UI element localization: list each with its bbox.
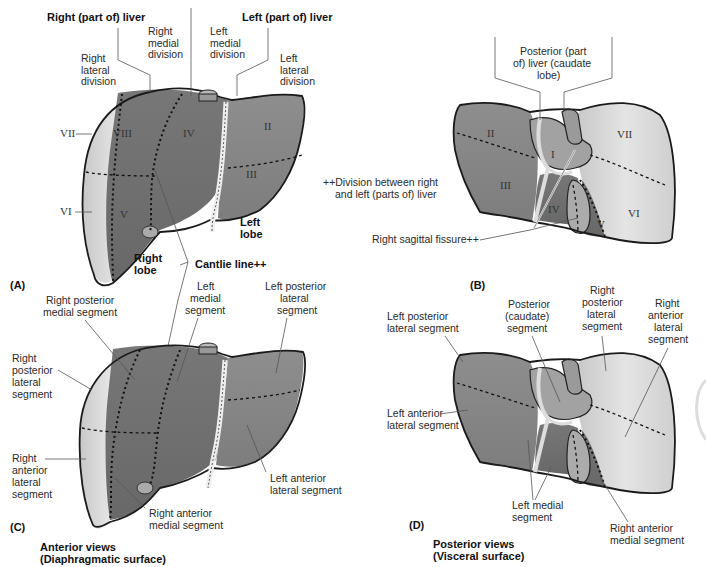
right-lobe-label: Right lobe [134, 252, 162, 276]
svg-text:(Diaphragmatic surface): (Diaphragmatic surface) [40, 553, 166, 565]
svg-text:Left posterior: Left posterior [387, 310, 449, 322]
segment-VIII-a: VIII [113, 127, 132, 139]
svg-text:Right anterior: Right anterior [149, 507, 213, 519]
svg-text:lateral: lateral [587, 308, 616, 320]
svg-text:posterior: posterior [582, 296, 623, 308]
left-posterior-lateral-d-label: Left posterior lateral segment [387, 310, 459, 334]
segment-VI-b: VI [628, 207, 640, 219]
svg-text:Left posterior: Left posterior [265, 280, 327, 292]
svg-text:segment: segment [512, 511, 552, 523]
anterior-views-caption: Anterior views (Diaphragmatic surface) [40, 541, 166, 565]
svg-text:division: division [148, 48, 183, 60]
left-part-liver-title: Left (part of) liver [242, 11, 333, 23]
right-medial-division-label: Right medial division [148, 25, 183, 60]
svg-text:and left (parts of) liver: and left (parts of) liver [335, 188, 437, 200]
svg-text:division: division [210, 48, 245, 60]
svg-text:segment: segment [185, 304, 225, 316]
segment-III-a: III [246, 168, 257, 180]
svg-text:medial segment: medial segment [43, 306, 117, 318]
svg-text:lateral: lateral [654, 321, 683, 333]
panel-d-id: (D) [409, 519, 425, 531]
right-posterior-lateral-d-label: Right posterior lateral segment [582, 284, 623, 332]
svg-text:Left: Left [210, 25, 228, 37]
segment-II-b: II [487, 127, 495, 139]
segment-V-b: V [597, 218, 605, 230]
posterior-views-caption: Posterior views (Visceral surface) [433, 538, 525, 562]
svg-text:lobe): lobe) [537, 69, 560, 81]
division-footnote: ++Division between right and left (parts… [323, 176, 438, 200]
left-anterior-lateral-c-label: Left anterior lateral segment [270, 472, 342, 496]
svg-text:medial: medial [190, 292, 221, 304]
panel-d: Left posterior lateral segment Posterior… [387, 284, 688, 562]
svg-text:lateral: lateral [12, 476, 41, 488]
svg-text:Left anterior: Left anterior [270, 472, 327, 484]
left-posterior-lateral-c-label: Left posterior lateral segment [265, 280, 327, 316]
panel-c: Right posterior medial segment Left medi… [10, 280, 342, 565]
left-medial-segment-c-label: Left medial segment [185, 280, 225, 316]
svg-text:division: division [81, 75, 116, 87]
svg-text:Posterior (part: Posterior (part [520, 45, 587, 57]
segment-V-a: V [120, 208, 128, 220]
segment-VI-a: VI [60, 205, 72, 217]
svg-text:++Division between right: ++Division between right [323, 176, 438, 188]
svg-text:Right anterior: Right anterior [610, 522, 674, 534]
svg-text:lobe: lobe [134, 264, 157, 276]
svg-text:Right: Right [590, 284, 615, 296]
svg-text:lateral: lateral [12, 376, 41, 388]
svg-text:segment: segment [12, 488, 52, 500]
svg-text:segment: segment [507, 322, 547, 334]
svg-text:Left: Left [280, 52, 298, 64]
right-anterior-medial-c-label: Right anterior medial segment [149, 507, 223, 531]
panel-a: VIII IV II III V VII VI Right (part of) … [10, 8, 333, 400]
svg-text:segment: segment [12, 388, 52, 400]
segment-I-b: I [551, 148, 555, 160]
caudate-lobe-label: Posterior (part of) liver (caudate lobe) [513, 45, 591, 81]
svg-text:division: division [280, 75, 315, 87]
liver-posterior-b: II I VII III IV V VI [454, 103, 675, 243]
svg-text:Anterior views: Anterior views [40, 541, 116, 553]
cantlie-line-label: Cantlie line++ [195, 258, 267, 270]
segment-III-b: III [500, 179, 511, 191]
svg-text:lateral segment: lateral segment [387, 419, 459, 431]
panel-b: II I VII III IV V VI Posterior (part of)… [323, 37, 675, 291]
svg-text:(caudate): (caudate) [505, 310, 549, 322]
right-sagittal-fissure-label: Right sagittal fissure++ [372, 233, 479, 245]
svg-text:anterior: anterior [648, 309, 684, 321]
left-anterior-lateral-d-label: Left anterior lateral segment [387, 407, 459, 431]
left-medial-segment-d-label: Left medial segment [512, 499, 563, 523]
left-lateral-division-label: Left lateral division [280, 52, 315, 87]
liver-anterior-c [80, 343, 305, 529]
svg-text:lateral: lateral [280, 292, 309, 304]
svg-text:Posterior views: Posterior views [433, 538, 514, 550]
svg-text:segment: segment [648, 333, 688, 345]
svg-text:Posterior: Posterior [508, 298, 551, 310]
svg-text:Right: Right [12, 352, 37, 364]
svg-text:lateral segment: lateral segment [270, 484, 342, 496]
liver-posterior-d [454, 353, 675, 493]
panel-b-id: (B) [470, 279, 486, 291]
right-part-liver-title: Right (part of) liver [47, 11, 146, 23]
svg-text:segment: segment [582, 320, 622, 332]
svg-text:posterior: posterior [12, 364, 53, 376]
liver-anterior-a: VIII IV II III V VII VI [60, 89, 304, 286]
segment-II-a: II [264, 120, 272, 132]
svg-text:Right: Right [81, 52, 106, 64]
segment-VII-a: VII [60, 127, 76, 139]
liver-segments-diagram: VIII IV II III V VII VI Right (part of) … [0, 0, 706, 567]
svg-text:Left: Left [197, 280, 215, 292]
svg-text:Left: Left [240, 216, 261, 228]
right-anterior-lateral-d-label: Right anterior lateral segment [648, 297, 688, 345]
svg-text:Right: Right [134, 252, 162, 264]
svg-text:(Visceral surface): (Visceral surface) [433, 550, 525, 562]
segment-IV-a: IV [183, 127, 195, 139]
svg-text:Right: Right [148, 25, 173, 37]
right-posterior-medial-label: Right posterior medial segment [43, 294, 117, 318]
svg-text:of) liver (caudate: of) liver (caudate [513, 57, 591, 69]
svg-text:Right posterior: Right posterior [46, 294, 115, 306]
page-edge-artifact [697, 380, 706, 440]
svg-text:lateral segment: lateral segment [387, 322, 459, 334]
svg-text:Left anterior: Left anterior [387, 407, 444, 419]
posterior-caudate-d-label: Posterior (caudate) segment [505, 298, 551, 334]
segment-VII-b: VII [617, 128, 633, 140]
left-lobe-label: Left lobe [240, 216, 263, 240]
